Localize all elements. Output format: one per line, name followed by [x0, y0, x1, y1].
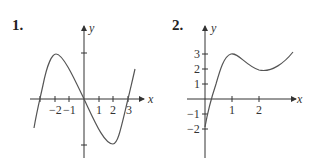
graph-2-ytick-neg1: −1	[187, 107, 200, 121]
graph-2-xtick-2: 2	[256, 103, 262, 117]
graph-2-ytick-neg2: −2	[187, 122, 200, 136]
graph-2-curve	[205, 52, 293, 127]
graph-1-xtick-neg2: −2	[49, 103, 62, 117]
graph-2-y-label: y	[210, 21, 217, 35]
graph-2-x-label: x	[296, 92, 303, 106]
graph-2-ytick-2: 2	[194, 62, 200, 76]
graph-2-ytick-1: 1	[194, 77, 200, 91]
graph-1-y-label: y	[88, 21, 95, 35]
graph-2: 1 2 3 2 1 −1 −2 x y	[187, 21, 303, 158]
graph-2-ytick-3: 3	[194, 47, 200, 61]
graphs-figure: −2 −1 1 2 3 x y 1 2 3 2 1 −1 −2 x y	[0, 0, 310, 165]
graph-1-xtick-1: 1	[96, 103, 102, 117]
graph-1-xtick-neg1: −1	[63, 103, 76, 117]
graph-1: −2 −1 1 2 3 x y	[30, 21, 154, 158]
graph-2-xtick-1: 1	[229, 103, 235, 117]
graph-1-xtick-2: 2	[110, 103, 116, 117]
graph-1-x-label: x	[147, 92, 154, 106]
